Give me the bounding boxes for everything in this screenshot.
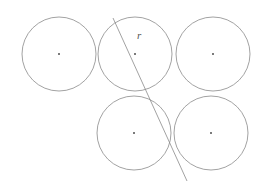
center-dot-top-left bbox=[58, 53, 60, 55]
circles-diagram-svg: r bbox=[0, 0, 271, 190]
center-dot-bottom-right bbox=[210, 132, 212, 134]
center-dot-top-right bbox=[212, 53, 214, 55]
center-dot-top-middle bbox=[134, 53, 136, 55]
diagram-canvas: r bbox=[0, 0, 271, 190]
radius-label: r bbox=[137, 29, 142, 41]
diagram-background bbox=[0, 0, 271, 190]
center-dot-bottom-left bbox=[133, 132, 135, 134]
